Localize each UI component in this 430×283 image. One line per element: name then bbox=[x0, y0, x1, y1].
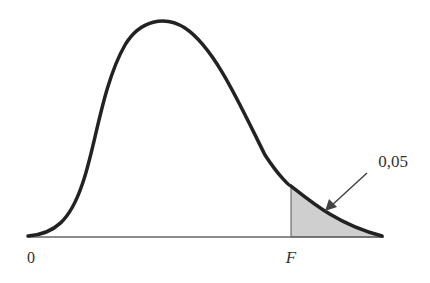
tail-area-label: 0,05 bbox=[378, 152, 408, 171]
f-distribution-diagram: 0 F 0,05 bbox=[0, 0, 430, 283]
critical-value-label: F bbox=[285, 248, 297, 267]
arrow-head-icon bbox=[325, 199, 337, 211]
rejection-region bbox=[291, 186, 382, 237]
origin-label: 0 bbox=[27, 249, 35, 266]
annotation-arrow bbox=[331, 173, 367, 206]
